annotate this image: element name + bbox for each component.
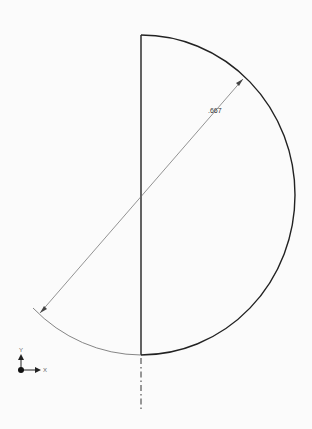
profile-arc[interactable] (141, 35, 295, 355)
x-axis-label: X (43, 367, 47, 373)
dimension-label[interactable]: .667 (208, 107, 222, 114)
x-arrow-icon (35, 367, 41, 373)
sketch-profile[interactable] (141, 35, 295, 355)
arrowhead-bottom (40, 306, 47, 313)
sketch-viewport[interactable]: .667 Y X (0, 0, 312, 429)
origin-dot-icon (18, 367, 24, 373)
y-arrow-icon (18, 354, 24, 360)
arrowhead-top (236, 79, 243, 86)
coordinate-triad: Y X (18, 347, 47, 373)
construction-arc[interactable] (33, 308, 141, 355)
y-axis-label: Y (19, 347, 23, 353)
